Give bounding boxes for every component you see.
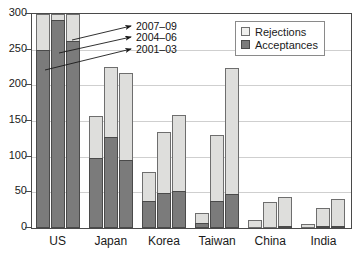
- bar-taiwan-2001-03: [195, 213, 209, 228]
- y-tick-label: 50: [0, 185, 27, 196]
- x-tick-label-taiwan: Taiwan: [191, 234, 244, 248]
- gridline: [32, 121, 351, 122]
- bar-segment-acceptances: [195, 223, 209, 228]
- gridline: [32, 157, 351, 158]
- rejections-swatch: [241, 27, 250, 36]
- y-tick-mark: [25, 191, 31, 192]
- bar-segment-acceptances: [210, 201, 224, 228]
- bar-segment-rejections: [316, 208, 330, 228]
- bar-segment-rejections: [278, 197, 292, 228]
- y-tick-mark: [25, 120, 31, 121]
- x-tick-label-us: US: [31, 234, 84, 248]
- bar-us-2007-09: [66, 14, 80, 228]
- bar-segment-acceptances: [51, 20, 65, 228]
- bar-segment-acceptances: [157, 193, 171, 228]
- y-tick-mark: [25, 13, 31, 14]
- y-tick-mark: [25, 84, 31, 85]
- bar-japan-2001-03: [89, 116, 103, 228]
- bar-us-2001-03: [36, 14, 50, 228]
- legend-label-rejections: Rejections: [255, 26, 306, 38]
- bar-segment-rejections: [301, 224, 315, 228]
- y-tick-mark: [25, 156, 31, 157]
- bar-segment-acceptances: [331, 226, 345, 228]
- legend-label-acceptances: Acceptances: [255, 39, 318, 51]
- bar-japan-2007-09: [119, 73, 133, 229]
- x-tick-label-japan: Japan: [84, 234, 137, 248]
- x-tick-label-china: China: [244, 234, 297, 248]
- legend-item-rejections: Rejections: [241, 25, 318, 38]
- bar-segment-acceptances: [142, 201, 156, 228]
- bar-segment-rejections: [248, 220, 262, 228]
- y-tick-label: 0: [0, 221, 27, 232]
- bar-china-2001-03: [248, 220, 262, 228]
- bar-segment-rejections: [263, 202, 277, 228]
- bar-korea-2007-09: [172, 115, 186, 228]
- acceptances-swatch: [241, 40, 250, 49]
- bar-taiwan-2004-06: [210, 135, 224, 228]
- bar-india-2007-09: [331, 199, 345, 228]
- bar-segment-acceptances: [36, 50, 50, 228]
- legend: Rejections Acceptances: [235, 21, 325, 56]
- x-tick-label-korea: Korea: [137, 234, 190, 248]
- bar-segment-acceptances: [89, 158, 103, 228]
- y-tick-mark: [25, 49, 31, 50]
- bar-india-2004-06: [316, 208, 330, 228]
- bar-segment-acceptances: [278, 226, 292, 228]
- bar-china-2004-06: [263, 202, 277, 228]
- bar-segment-acceptances: [119, 160, 133, 228]
- gridline: [32, 192, 351, 193]
- y-tick-label: 200: [0, 78, 27, 89]
- x-tick-label-india: India: [297, 234, 350, 248]
- bar-china-2007-09: [278, 197, 292, 228]
- bar-korea-2001-03: [142, 172, 156, 228]
- y-tick-label: 100: [0, 150, 27, 161]
- annotation-label-2001-03: 2001–03: [136, 44, 177, 55]
- annotation-label-2004-06: 2004–06: [136, 32, 177, 43]
- bar-chart: 050100150200250300 USJapanKoreaTaiwanChi…: [0, 0, 363, 265]
- y-tick-label: 150: [0, 114, 27, 125]
- bar-korea-2004-06: [157, 132, 171, 228]
- legend-item-acceptances: Acceptances: [241, 38, 318, 51]
- bar-segment-acceptances: [316, 226, 330, 228]
- bar-segment-acceptances: [104, 137, 118, 228]
- bar-us-2004-06: [51, 14, 65, 228]
- bar-segment-rejections: [331, 199, 345, 228]
- bar-segment-acceptances: [66, 41, 80, 228]
- bar-taiwan-2007-09: [225, 68, 239, 228]
- bar-segment-acceptances: [172, 191, 186, 228]
- bar-segment-acceptances: [225, 194, 239, 228]
- gridline: [32, 85, 351, 86]
- y-tick-mark: [25, 227, 31, 228]
- bar-japan-2004-06: [104, 67, 118, 228]
- y-tick-label: 250: [0, 43, 27, 54]
- y-tick-label: 300: [0, 7, 27, 18]
- bar-india-2001-03: [301, 224, 315, 228]
